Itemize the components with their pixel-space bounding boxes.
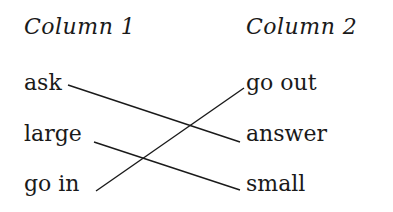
match-line-ask-answer [68, 85, 240, 142]
match-line-goin-goout [96, 88, 244, 191]
matching-lines [0, 0, 393, 212]
match-line-large-small [94, 142, 240, 190]
